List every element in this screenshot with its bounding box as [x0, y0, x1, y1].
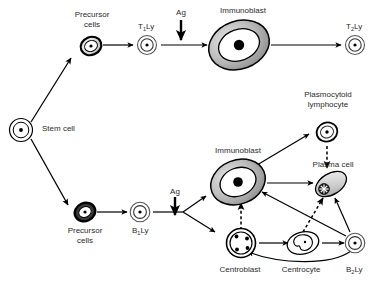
plasma-cell-nucleolus: [323, 188, 325, 190]
t1ly-nucleus: [145, 43, 148, 46]
label-t2ly: T2Ly: [346, 22, 362, 32]
label-b2ly: B2Ly: [346, 265, 363, 275]
cell-t1ly: [138, 36, 157, 55]
label-ag-top: Ag: [176, 8, 186, 17]
label-immunoblast-top: Immunoblast: [220, 6, 267, 15]
label-b-precursor-line1: Precursor: [68, 226, 103, 235]
label-stem-cell: Stem cell: [42, 124, 75, 133]
label-t2ly-tail: Ly: [354, 22, 362, 31]
immunoblast-top-nucleus: [234, 40, 244, 50]
label-immunoblast-mid: Immunoblast: [215, 146, 262, 155]
centroblast-nucleolus: [235, 248, 239, 252]
label-t-precursor-line1: Precursor: [75, 10, 110, 19]
label-centrocyte: Centrocyte: [282, 265, 321, 274]
label-centroblast: Centroblast: [220, 265, 262, 274]
label-ag-bottom: Ag: [170, 187, 180, 196]
immunoblast-mid-nucleus: [233, 177, 243, 187]
label-t1ly: T1Ly: [138, 22, 154, 32]
plasmocytoid-nucleus: [325, 130, 328, 133]
cell-b1ly: [130, 202, 150, 222]
b2ly-nucleus: [353, 241, 356, 244]
label-plasma-cell: Plasma cell: [313, 160, 354, 169]
label-plasmocytoid-line2: lymphocyte: [308, 100, 349, 109]
label-t-precursor-line2: cells: [84, 20, 100, 29]
t-precursor-nucleus: [89, 44, 92, 47]
centroblast-nuclear-envelope: [230, 232, 252, 254]
label-t1ly-tail: Ly: [146, 22, 154, 31]
centroblast-nucleolus: [235, 235, 239, 239]
label-b-precursor-line2: cells: [77, 236, 93, 245]
cell-t2ly: [346, 36, 365, 55]
label-b1ly: B1Ly: [132, 226, 149, 236]
lymphocyte-differentiation-diagram: Stem cell Precursor cells T1Ly Ag Immuno…: [0, 0, 379, 301]
stem-cell-nucleus: [19, 128, 23, 132]
centroblast-nucleolus: [246, 246, 250, 250]
b-precursor-nucleus: [83, 210, 86, 213]
label-b1ly-tail: Ly: [140, 226, 148, 235]
cell-stem-cell: [10, 119, 33, 142]
cell-centroblast: [227, 229, 256, 258]
centrocyte-nucleolus: [304, 241, 306, 243]
cell-b2ly: [345, 233, 365, 253]
label-b2ly-tail: Ly: [354, 265, 362, 274]
centroblast-nucleolus: [245, 237, 249, 241]
t2ly-nucleus: [353, 43, 356, 46]
b1ly-nucleus: [138, 210, 141, 213]
label-plasmocytoid-line1: Plasmocytoid: [304, 90, 352, 99]
